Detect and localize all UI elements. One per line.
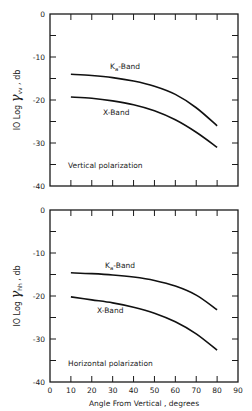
curve-ka-band bbox=[71, 74, 217, 126]
x-tick-label: 90 bbox=[233, 386, 243, 395]
y-tick-label: -40 bbox=[33, 378, 45, 387]
y-tick-label: -20 bbox=[33, 292, 45, 301]
y-tick-label: -10 bbox=[33, 249, 45, 258]
curve-x-band bbox=[71, 297, 217, 350]
y-axis-label: IO Log γvv , db bbox=[8, 70, 23, 131]
y-tick-label: 0 bbox=[40, 10, 45, 19]
y-tick-label: 0 bbox=[40, 206, 45, 215]
x-tick-label: 60 bbox=[171, 386, 181, 395]
x-tick-label: 70 bbox=[191, 386, 201, 395]
x-tick-label: 20 bbox=[87, 386, 97, 395]
x-axis-label: Angle From Vertical , degrees bbox=[89, 399, 199, 408]
y-tick-label: -20 bbox=[33, 96, 45, 105]
curve-ka-band bbox=[71, 273, 217, 310]
series-label-ka-band: Ka-Band bbox=[105, 261, 135, 271]
series-label-ka-band: Ka-Band bbox=[110, 62, 140, 72]
polarization-annotation: Horizontal polarization bbox=[68, 359, 153, 368]
panel-vertical-polarization: 0-10-20-30-40IO Log γvv , dbVertical pol… bbox=[8, 10, 238, 191]
polarization-annotation: Vertical polarization bbox=[68, 161, 143, 170]
x-tick-label: 30 bbox=[108, 386, 118, 395]
x-tick-label: 40 bbox=[129, 386, 139, 395]
x-tick-label: 0 bbox=[48, 386, 53, 395]
y-axis-label: IO Log γhh , db bbox=[8, 265, 23, 326]
x-tick-label: 10 bbox=[66, 386, 76, 395]
curve-x-band bbox=[71, 97, 217, 147]
panel-horizontal-polarization: 0-10-20-30-400102030405060708090Angle Fr… bbox=[8, 206, 243, 408]
plot-frame bbox=[50, 210, 238, 382]
y-tick-label: -40 bbox=[33, 182, 45, 191]
x-tick-label: 50 bbox=[150, 386, 160, 395]
y-tick-label: -30 bbox=[33, 139, 45, 148]
series-label-x-band: X-Band bbox=[97, 306, 124, 315]
series-label-x-band: X-Band bbox=[103, 108, 130, 117]
figure: 0-10-20-30-40IO Log γvv , dbVertical pol… bbox=[0, 0, 252, 411]
y-tick-label: -10 bbox=[33, 53, 45, 62]
y-tick-label: -30 bbox=[33, 335, 45, 344]
x-tick-label: 80 bbox=[212, 386, 222, 395]
